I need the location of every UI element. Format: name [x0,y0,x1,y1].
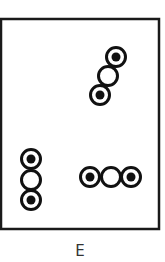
empty-circle-icon [99,67,118,86]
center-dot-icon [27,196,36,205]
center-dot-icon [96,91,105,100]
figure-label: E [0,242,160,260]
center-dot-icon [27,155,36,164]
horizontal-chain [81,168,141,187]
figure-canvas [0,0,165,262]
center-dot-icon [86,173,95,182]
vertical-chain [22,150,41,210]
center-dot-icon [127,173,136,182]
empty-circle-icon [102,168,121,187]
circle-groups [22,48,141,210]
empty-circle-icon [22,171,41,190]
center-dot-icon [112,53,121,62]
diagonal-chain [91,48,126,105]
